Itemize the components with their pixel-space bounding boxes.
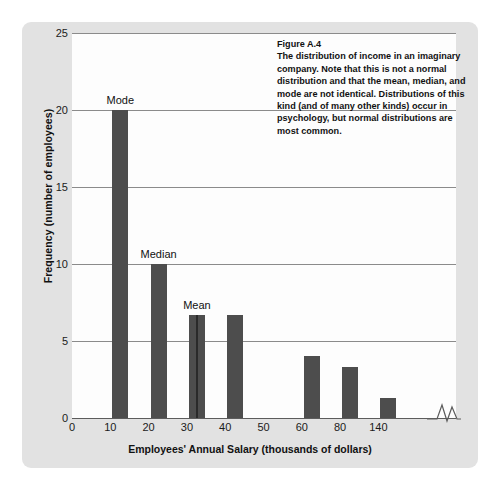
x-axis-line — [72, 418, 456, 419]
y-tick-label: 5 — [40, 336, 68, 347]
x-tick-label: 10 — [90, 421, 130, 433]
mean-marker-line — [196, 315, 198, 418]
x-tick-label: 50 — [244, 421, 284, 433]
bar — [380, 398, 396, 418]
bar — [151, 264, 167, 418]
annotation-mode: Mode — [85, 94, 155, 106]
gridline — [72, 341, 456, 342]
gridline — [72, 33, 456, 34]
figure-caption: Figure A.4 The distribution of income in… — [277, 38, 467, 137]
bar — [112, 110, 128, 418]
bar — [342, 367, 358, 418]
x-tick-label: 60 — [282, 421, 322, 433]
annotation-median: Median — [124, 248, 194, 260]
gridline — [72, 187, 456, 188]
x-tick-label: 20 — [129, 421, 169, 433]
gridline — [72, 264, 456, 265]
x-axis-ticks: 010203040506080140 — [72, 421, 456, 437]
annotation-mean: Mean — [162, 299, 232, 311]
x-tick-label: 0 — [52, 421, 92, 433]
x-tick-label: 80 — [320, 421, 360, 433]
x-tick-label: 40 — [205, 421, 245, 433]
y-tick-label: 25 — [40, 28, 68, 39]
bar — [227, 315, 243, 418]
x-axis-title: Employees' Annual Salary (thousands of d… — [22, 443, 478, 455]
caption-body: The distribution of income in an imagina… — [277, 50, 467, 137]
bar — [304, 356, 320, 418]
caption-title: Figure A.4 — [277, 38, 467, 50]
x-tick-label: 140 — [358, 421, 398, 433]
axis-break-zigzag — [427, 401, 461, 423]
figure-a4: ModeMedianMean 0510152025 Frequency (num… — [0, 0, 500, 497]
x-tick-label: 30 — [167, 421, 207, 433]
y-axis-title: Frequency (number of employees) — [42, 86, 54, 306]
